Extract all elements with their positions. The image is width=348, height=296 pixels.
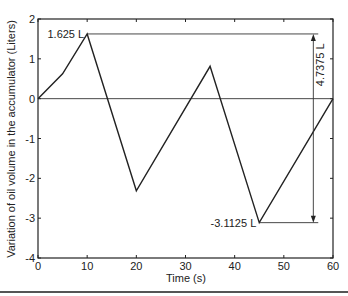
x-tick-label: 10 (81, 260, 93, 272)
arrow-down-icon (311, 216, 316, 223)
x-tick-label: 30 (179, 260, 191, 272)
x-axis-label: Time (s) (166, 272, 206, 284)
value-label: -3.1125 L (211, 217, 257, 229)
y-tick-label: 2 (29, 13, 35, 25)
y-tick-label: 1 (29, 53, 35, 65)
oil-volume-chart: 0102030405060-4-3-2-10121.625 L-3.1125 L… (0, 0, 348, 296)
x-tick-label: 40 (229, 260, 241, 272)
y-tick-label: -4 (25, 252, 35, 264)
x-tick-label: 20 (130, 260, 142, 272)
y-tick-label: -2 (25, 172, 35, 184)
dimension-label: 4.7375 L (314, 43, 326, 86)
x-tick-label: 0 (35, 260, 41, 272)
y-tick-label: 0 (29, 93, 35, 105)
arrow-up-icon (311, 34, 316, 41)
value-label: 1.625 L (47, 28, 84, 40)
bottom-divider (0, 291, 348, 293)
x-tick-label: 50 (278, 260, 290, 272)
y-tick-label: -3 (25, 212, 35, 224)
plot-area: 0102030405060-4-3-2-10121.625 L-3.1125 L… (25, 13, 339, 272)
y-tick-label: -1 (25, 133, 35, 145)
x-tick-label: 60 (327, 260, 339, 272)
data-series-line (38, 34, 333, 223)
axes-frame (38, 19, 333, 258)
y-axis-label: Variation of oil volume in the accumulat… (5, 20, 17, 258)
